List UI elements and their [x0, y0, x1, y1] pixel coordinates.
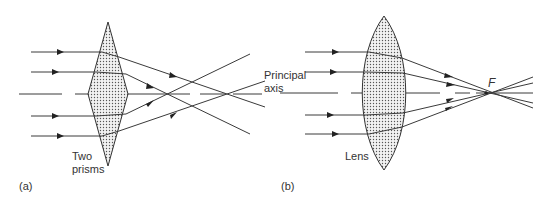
- lens-label: Lens: [345, 150, 369, 163]
- focal-point: [484, 91, 488, 95]
- convex-lens-shape: [362, 16, 406, 170]
- principal-axis-label: Principal axis: [264, 69, 306, 95]
- prism-label: Two prisms: [72, 150, 104, 176]
- panel-b-tag: (b): [281, 180, 294, 193]
- panel-a-tag: (a): [19, 180, 32, 193]
- two-prisms-shape: [88, 22, 128, 166]
- focus-label: F: [488, 77, 495, 90]
- panel-b: [280, 16, 533, 170]
- panel-a: [19, 22, 265, 166]
